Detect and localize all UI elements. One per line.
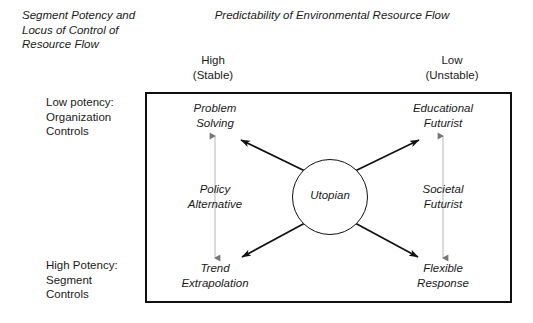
row-header-high-potency: High Potency: Segment Controls (46, 258, 146, 302)
column-header-high-stable: High (Stable) (138, 53, 288, 82)
quadrant-label-educational-futurist: Educational Futurist (373, 101, 513, 130)
quadrant-label-problem-solving: Problem Solving (145, 101, 285, 130)
horizontal-axis-heading: Predictability of Environmental Resource… (167, 8, 497, 23)
quadrant-label-societal-futurist: Societal Futurist (373, 182, 513, 211)
quadrant-label-policy-alternative: Policy Alternative (145, 182, 285, 211)
center-label-utopian: Utopian (292, 189, 368, 201)
quadrant-label-flexible-response: Flexible Response (373, 261, 513, 290)
quadrant-label-trend-extrapolation: Trend Extrapolation (135, 261, 295, 290)
figure-canvas: Segment Potency and Locus of Control of … (0, 0, 533, 323)
column-header-low-unstable: Low (Unstable) (377, 53, 527, 82)
row-header-low-potency: Low potency: Organization Controls (46, 95, 146, 139)
